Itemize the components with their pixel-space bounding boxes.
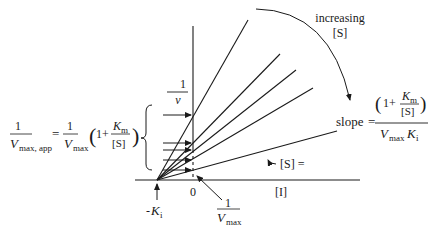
svg-text:1: 1 xyxy=(15,119,21,133)
svg-text:1+: 1+ xyxy=(383,96,396,110)
svg-text:slope: slope xyxy=(336,114,364,129)
svg-text:max: max xyxy=(226,217,242,227)
svg-text:1: 1 xyxy=(67,119,73,133)
s-equals-label: [S] = xyxy=(280,157,305,171)
inhibitor-line-5 xyxy=(157,131,337,180)
svg-text:): ) xyxy=(132,123,139,148)
svg-text:max: max xyxy=(73,143,89,153)
svg-text:m: m xyxy=(410,95,417,105)
svg-text:(: ( xyxy=(375,93,381,115)
brace xyxy=(141,105,152,170)
svg-text:): ) xyxy=(420,93,426,115)
svg-text:1: 1 xyxy=(180,77,186,91)
svg-text:=: = xyxy=(52,126,59,141)
axes xyxy=(135,26,360,180)
inhibitor-lines xyxy=(157,20,337,180)
svg-text:i: i xyxy=(416,133,419,143)
origin-label: 0 xyxy=(190,185,196,199)
svg-text:1: 1 xyxy=(225,196,231,210)
svg-text:v: v xyxy=(175,93,181,107)
svg-text:m: m xyxy=(121,125,128,135)
x-intercept-label: - K i xyxy=(146,203,163,220)
svg-text:max, app: max, app xyxy=(19,143,52,153)
svg-text:[S]: [S] xyxy=(401,105,414,117)
svg-text:[S]: [S] xyxy=(112,137,125,149)
increasing-s-label: [S] xyxy=(333,26,348,40)
x-axis-label: [I] xyxy=(275,185,287,199)
s-equals-pointer xyxy=(268,160,276,164)
dixon-plot-diagram: 1 v increasing [S] slope = ( 1+ K m [S] … xyxy=(0,0,430,228)
increasing-label: increasing xyxy=(315,11,364,25)
svg-text:-: - xyxy=(146,204,150,218)
svg-text:1+: 1+ xyxy=(96,127,109,141)
svg-text:max: max xyxy=(389,133,405,143)
svg-text:=: = xyxy=(368,114,375,129)
y-intercept-label: 1 V max xyxy=(217,196,242,227)
vmax-app-equation: 1 V max, app = 1 V max ( 1+ K m [S] ) xyxy=(10,119,139,153)
svg-text:i: i xyxy=(160,210,163,220)
y-axis-label: 1 v xyxy=(167,77,188,107)
